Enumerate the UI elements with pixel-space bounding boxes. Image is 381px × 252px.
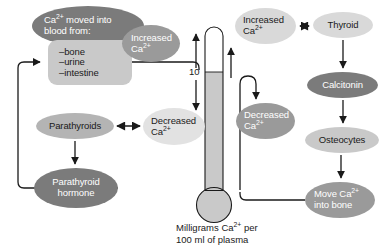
source-intestine: –intestine xyxy=(59,67,99,78)
move-ca-line2: into bone xyxy=(314,199,352,210)
node-increased-ca-right: Increased Ca2+ xyxy=(235,8,296,44)
figure-caption: Milligrams Ca2+ per 100 ml of plasma xyxy=(176,222,258,246)
node-thyroid: Thyroid xyxy=(313,12,373,38)
move-ca-line1: Move Ca2+ xyxy=(314,188,359,199)
node-decreased-ca-mid: Decreased Ca2+ xyxy=(236,103,295,139)
pth-line2: hormone xyxy=(58,187,95,198)
thyroid-label: Thyroid xyxy=(328,20,359,31)
diagram-canvas: Ca2+ moved into blood from: –bone –urine… xyxy=(0,0,381,252)
node-calcium-sources: –bone –urine –intestine xyxy=(48,40,132,85)
node-decreased-ca-left: Decreased Ca2+ xyxy=(143,108,205,145)
node-parathyroid-hormone: Parathyroid hormone xyxy=(34,168,118,208)
caption-line1: Milligrams Ca2+ per xyxy=(176,222,258,233)
source-urine: –urine xyxy=(59,56,85,67)
decreased-ca-mid-line1: Decreased xyxy=(244,109,289,120)
ca-moved-line2: blood from: xyxy=(44,25,90,36)
pth-line1: Parathyroid xyxy=(52,176,99,187)
calcitonin-label: Calcitonin xyxy=(322,80,363,91)
increased-ca-right-line1: Increased xyxy=(243,14,284,25)
decreased-ca-left-line1: Decreased xyxy=(151,115,196,126)
ca-moved-line1: Ca2+ moved into xyxy=(44,14,112,25)
decreased-ca-mid-line2: Ca2+ xyxy=(244,120,264,131)
decreased-ca-left-line2: Ca2+ xyxy=(151,126,171,137)
node-calcitonin: Calcitonin xyxy=(307,72,378,98)
line-movebone-to-thermometer xyxy=(240,192,305,200)
node-osteocytes: Osteocytes xyxy=(305,127,379,153)
increased-ca-left-line1: Increased xyxy=(131,32,172,43)
node-move-ca-into-bone: Move Ca2+ into bone xyxy=(305,182,375,218)
node-increased-ca-left: Increased Ca2+ xyxy=(122,25,180,62)
node-parathyroids: Parathyroids xyxy=(36,113,114,139)
increased-ca-right-line2: Ca2+ xyxy=(243,25,263,36)
osteocytes-label: Osteocytes xyxy=(319,135,366,146)
parathyroids-label: Parathyroids xyxy=(49,121,101,132)
source-bone: –bone xyxy=(59,46,85,57)
scale-tick-label: 10 xyxy=(189,66,200,77)
caption-line2: 100 ml of plasma xyxy=(176,234,248,245)
increased-ca-left-line2: Ca2+ xyxy=(131,43,151,54)
